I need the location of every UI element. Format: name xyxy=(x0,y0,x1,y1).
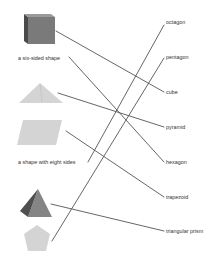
line-pyramid-to-triangular-prism xyxy=(51,204,164,231)
line-six-sided-to-hexagon xyxy=(69,57,164,162)
line-parallelogram-to-trapezoid xyxy=(66,131,164,197)
line-cube-to-cube xyxy=(56,31,164,92)
connection-lines xyxy=(0,0,224,269)
line-pentagon-to-pentagon xyxy=(52,58,164,241)
line-triangle-to-pyramid xyxy=(58,93,164,127)
line-eight-sides-to-octagon xyxy=(88,25,164,162)
matching-diagram: a six-sided shape a shape with eight sid… xyxy=(0,0,224,269)
